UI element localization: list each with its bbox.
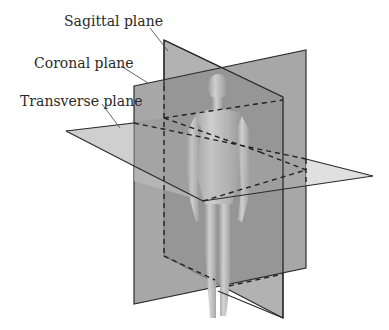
planes-illustration: [0, 0, 389, 330]
coronal-plane-label: Coronal plane: [34, 56, 134, 70]
sagittal-plane-label: Sagittal plane: [64, 14, 163, 28]
transverse-plane-label: Transverse plane: [20, 94, 142, 108]
transverse-plane-right: [306, 159, 373, 186]
